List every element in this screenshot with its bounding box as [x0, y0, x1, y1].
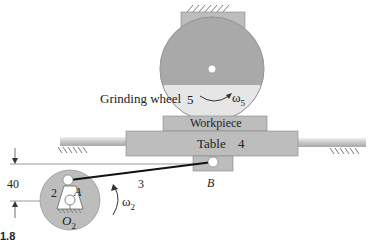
- right-ground-hatch: [330, 148, 359, 154]
- guide-rod-left: [60, 137, 126, 146]
- crank-number-label: 2: [51, 187, 57, 199]
- wheel-number-label: 5: [187, 93, 194, 106]
- omega5-subscript: 5: [241, 98, 246, 108]
- pivot-o2-label: O2: [62, 214, 76, 231]
- guide-rod-right: [298, 138, 366, 147]
- top-ground-hatch: [187, 5, 229, 12]
- omega2-arrowhead-icon: [111, 184, 118, 191]
- omega5-symbol: ω: [232, 90, 241, 105]
- omega2-label: ω2: [122, 195, 135, 212]
- table-label: Table: [197, 137, 226, 150]
- dimension-40-label: 40: [7, 178, 19, 190]
- pin-a: [63, 175, 73, 185]
- workpiece-label: Workpiece: [190, 117, 242, 129]
- figure-caption-partial: 1.8: [0, 231, 15, 242]
- omega5-label: ω5: [232, 91, 245, 108]
- rod-number-label: 3: [138, 178, 144, 190]
- pivot-o-subscript: 2: [71, 221, 76, 231]
- point-b-label: B: [207, 177, 214, 189]
- omega2-subscript: 2: [131, 202, 136, 212]
- omega2-arrow-icon: [113, 188, 118, 215]
- pin-b: [208, 157, 218, 167]
- grinding-wheel-label: Grinding wheel: [100, 92, 181, 105]
- wheel-center-pin: [208, 65, 216, 73]
- dimension-arrow-up-icon: [12, 201, 18, 207]
- dimension-arrow-down-icon: [12, 158, 18, 164]
- point-a-label: A: [74, 186, 81, 198]
- omega2-symbol: ω: [122, 194, 131, 209]
- table-number-label: 4: [238, 137, 245, 150]
- left-ground-hatch: [58, 147, 87, 153]
- pivot-o-symbol: O: [62, 213, 71, 228]
